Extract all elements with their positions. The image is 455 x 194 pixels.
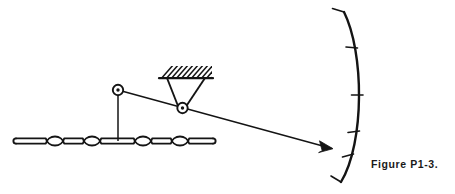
arc-tick — [331, 176, 341, 182]
figure-container: Figure P1-3. — [0, 0, 455, 194]
chain-bar-left-cap — [13, 138, 16, 143]
arc-scale-group — [331, 9, 363, 183]
arrow-head — [319, 141, 333, 153]
arc-scale-ticks — [331, 9, 363, 183]
chain-bar-group — [13, 136, 215, 145]
chain-bar-right-cap — [213, 138, 216, 143]
ground-support-group — [159, 64, 224, 80]
left-pivot-center-dot-icon — [116, 88, 119, 91]
bracket-group — [167, 78, 205, 106]
arc-tick — [346, 47, 358, 48]
arc-tick — [333, 9, 345, 13]
arc-tick — [348, 131, 360, 133]
bracket-right-leg — [187, 78, 205, 105]
bracket-left-leg — [167, 78, 178, 106]
fulcrum-pivot-center-dot-icon — [181, 106, 184, 109]
figure-caption: Figure P1-3. — [371, 158, 438, 170]
